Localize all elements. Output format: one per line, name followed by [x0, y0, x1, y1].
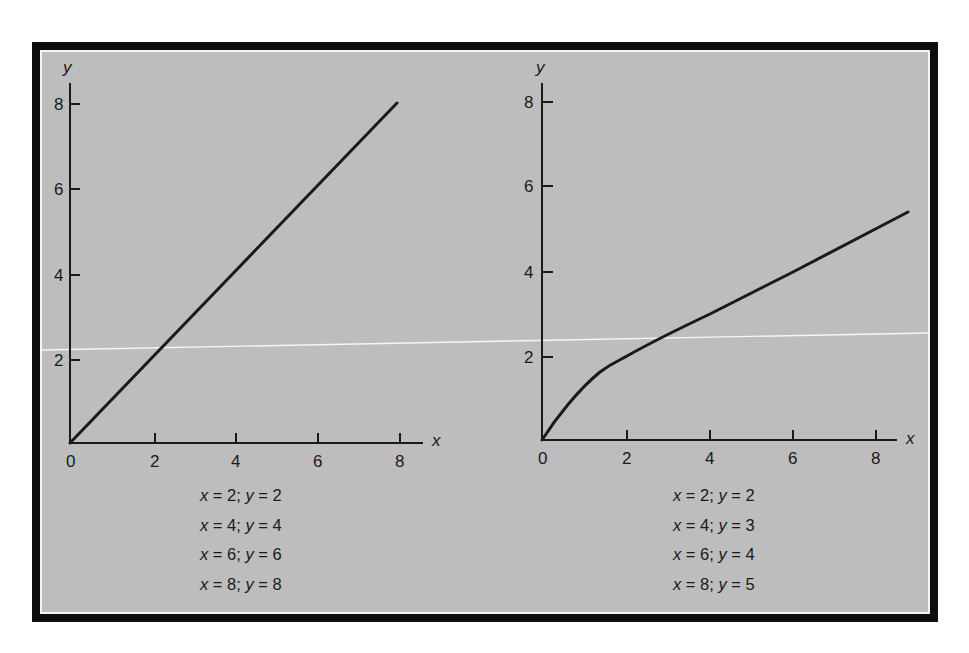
pair-y-value: 5 — [745, 575, 754, 593]
left-y-tick-label: 2 — [54, 351, 63, 370]
pair-row: x = 6; y = 4 — [673, 540, 755, 570]
left-y-tick-label: 8 — [54, 95, 63, 114]
left-y-tick-label: 4 — [54, 266, 63, 285]
left-x-tick-label: 0 — [66, 452, 75, 471]
plots-canvas: 2 4 6 8 0 2 4 6 8 y x 2 4 6 — [0, 0, 969, 653]
right-y-ticks — [542, 102, 553, 357]
right-x-tick-label: 2 — [622, 449, 631, 468]
pair-x-value: 4 — [227, 516, 236, 534]
right-x-axis-label: x — [905, 429, 915, 448]
pair-x-value: 8 — [700, 575, 709, 593]
left-x-ticks — [155, 433, 400, 443]
right-x-tick-label: 0 — [538, 449, 547, 468]
pair-y-value: 2 — [272, 486, 281, 504]
pair-y-value: 8 — [272, 575, 281, 593]
left-chart: 2 4 6 8 0 2 4 6 8 y x — [54, 58, 441, 471]
left-y-ticks — [70, 104, 80, 360]
right-pairs-list: x = 2; y = 2 x = 4; y = 3 x = 6; y = 4 x… — [673, 481, 755, 600]
left-y-tick-label: 6 — [54, 180, 63, 199]
right-x-tick-label: 6 — [788, 449, 797, 468]
pair-x-value: 2 — [700, 486, 709, 504]
pair-row: x = 8; y = 8 — [200, 570, 282, 600]
pair-x-value: 4 — [700, 516, 709, 534]
pair-row: x = 4; y = 3 — [673, 511, 755, 541]
right-y-axis-label: y — [535, 58, 546, 77]
pair-x-value: 6 — [227, 545, 236, 563]
left-pairs-list: x = 2; y = 2 x = 4; y = 4 x = 6; y = 6 x… — [200, 481, 282, 600]
pair-y-value: 2 — [745, 486, 754, 504]
pair-x-value: 2 — [227, 486, 236, 504]
left-x-tick-label: 6 — [313, 452, 322, 471]
left-x-tick-label: 8 — [395, 452, 404, 471]
right-chart: 2 4 6 8 0 2 4 6 8 y x — [524, 58, 915, 468]
right-y-tick-label: 6 — [524, 177, 533, 196]
pair-y-value: 4 — [745, 545, 754, 563]
pair-row: x = 8; y = 5 — [673, 570, 755, 600]
pair-y-value: 3 — [745, 516, 754, 534]
pair-y-value: 6 — [272, 545, 281, 563]
pair-row: x = 2; y = 2 — [673, 481, 755, 511]
right-series-curve — [542, 212, 908, 440]
right-x-ticks — [627, 430, 876, 440]
right-x-tick-label: 4 — [705, 449, 714, 468]
right-x-tick-label: 8 — [871, 449, 880, 468]
left-x-axis-label: x — [431, 431, 441, 450]
left-y-axis-label: y — [62, 58, 73, 77]
left-x-tick-label: 2 — [150, 452, 159, 471]
pair-row: x = 6; y = 6 — [200, 540, 282, 570]
left-x-tick-label: 4 — [231, 452, 240, 471]
pair-row: x = 4; y = 4 — [200, 511, 282, 541]
right-y-tick-label: 4 — [524, 263, 533, 282]
pair-y-value: 4 — [272, 516, 281, 534]
right-y-tick-label: 8 — [524, 93, 533, 112]
pair-x-value: 8 — [227, 575, 236, 593]
left-series-line — [70, 103, 397, 443]
pair-row: x = 2; y = 2 — [200, 481, 282, 511]
right-y-tick-label: 2 — [524, 348, 533, 367]
pair-x-value: 6 — [700, 545, 709, 563]
